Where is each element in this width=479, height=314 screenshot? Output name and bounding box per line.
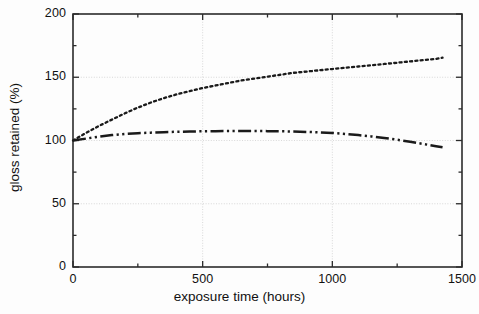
y-tick-label: 200 — [20, 6, 66, 20]
x-tick-label: 1500 — [432, 272, 479, 286]
y-tick-label: 100 — [20, 133, 66, 147]
x-tick-label: 0 — [43, 272, 103, 286]
data-series-group — [73, 58, 443, 148]
y-axis-label: gloss retained (%) — [7, 48, 22, 228]
series-line-dotted-series — [73, 58, 443, 141]
y-tick-label: 150 — [20, 69, 66, 83]
x-tick-label: 500 — [173, 272, 233, 286]
y-tick-label: 50 — [20, 196, 66, 210]
series-line-dash-dot-dot-series — [73, 131, 443, 147]
x-tick-label: 1000 — [302, 272, 362, 286]
gloss-retention-chart: 050100150200 050010001500 exposure time … — [0, 0, 479, 314]
plot-canvas — [0, 0, 479, 314]
y-tick-label: 0 — [20, 259, 66, 273]
y-axis-label-wrap: gloss retained (%) — [2, 0, 24, 280]
x-axis-label: exposure time (hours) — [0, 289, 479, 304]
